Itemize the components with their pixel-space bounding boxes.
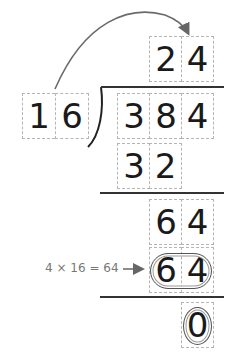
divisor-digit: 6: [55, 93, 89, 139]
quotient-digit: 4: [181, 36, 214, 82]
remainder-digit: 4: [181, 199, 214, 245]
quotient-digit: 2: [149, 36, 182, 82]
multiplication-annotation: 4 × 16 = 64: [45, 261, 119, 275]
remainder-digit: 6: [149, 199, 182, 245]
highlight-oval-0: [183, 307, 212, 345]
dividend-digit: 8: [149, 93, 182, 139]
subtraction-line-1: [100, 192, 224, 194]
divisor-digit: 1: [22, 93, 55, 139]
highlight-oval-64: [150, 253, 212, 289]
division-top-line: [101, 86, 224, 88]
subtraction-line-2: [100, 296, 224, 298]
dividend-digit: 3: [117, 93, 150, 139]
division-bracket: [88, 87, 102, 147]
subtract-digit: 2: [149, 143, 182, 189]
dividend-digit: 4: [181, 93, 214, 139]
subtract-digit: 3: [117, 143, 150, 189]
